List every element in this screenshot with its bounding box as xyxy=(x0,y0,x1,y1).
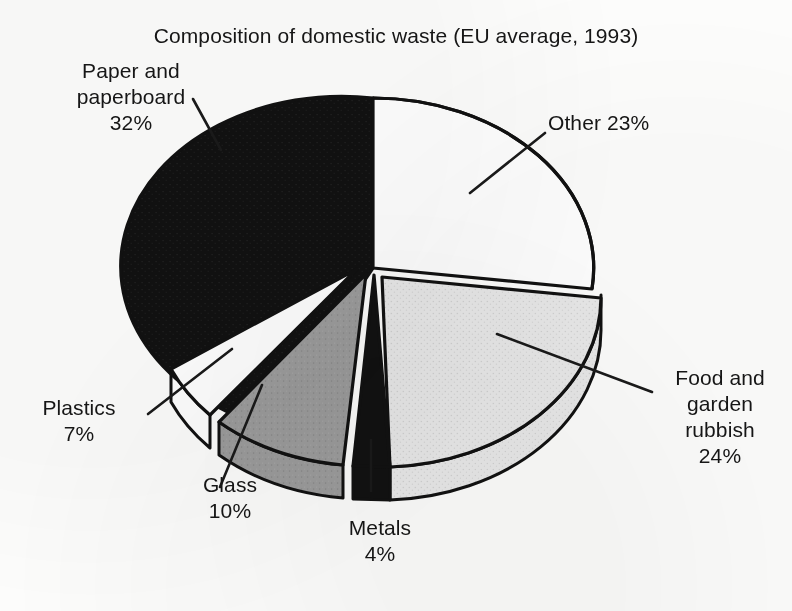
slice-food-and-garden-rubbish xyxy=(382,277,601,467)
slice-label-food-and-garden-rubbish: Food and garden rubbish 24% xyxy=(650,365,790,469)
slice-label-glass: Glass 10% xyxy=(160,472,300,524)
slice-label-other: Other 23% xyxy=(548,110,738,136)
slice-label-plastics: Plastics 7% xyxy=(4,395,154,447)
chart-canvas: Composition of domestic waste (EU averag… xyxy=(0,0,792,611)
slice-label-metals: Metals 4% xyxy=(310,515,450,567)
slice-label-paper-and-paperboard: Paper and paperboard 32% xyxy=(36,58,226,136)
